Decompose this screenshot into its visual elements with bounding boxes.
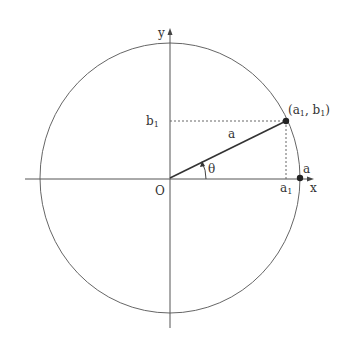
x-axis-label: x [310,182,317,194]
b1-subscript: 1 [154,120,159,129]
a1-subscript: 1 [287,187,292,196]
b1-text: b [146,114,154,128]
point-mid-text: , b [305,103,320,117]
point-coordinates-label: (a1, b1) [288,104,330,118]
diagram-canvas: y x O b1 a1 a a θ (a1, b1) [0,0,347,347]
point-open-text: (a [288,103,300,117]
point-a1-b1 [283,118,289,124]
b1-label: b1 [146,115,159,129]
origin-label: O [155,185,165,197]
radius-label: a [228,128,235,140]
point-close-text: ) [325,103,330,117]
theta-label: θ [208,163,215,175]
a1-label: a1 [280,182,292,196]
y-axis-arrow-icon [168,28,173,35]
axis-radius-label: a [303,163,310,175]
y-axis-label: y [158,27,165,39]
diagram-svg [0,0,347,347]
